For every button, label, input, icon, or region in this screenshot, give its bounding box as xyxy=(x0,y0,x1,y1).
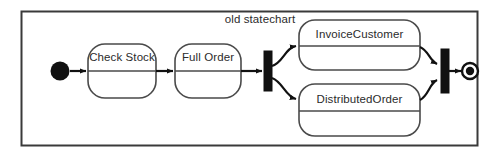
statechart-canvas: old statechart Check Stock Full Order xyxy=(0,0,498,156)
diagram-title: old statechart xyxy=(225,13,296,25)
statechart-diagram: old statechart Check Stock Full Order xyxy=(0,0,498,156)
initial-state-node[interactable] xyxy=(51,62,70,81)
fork-bar-node[interactable] xyxy=(264,51,272,91)
state-distributed-order-box xyxy=(299,84,420,136)
state-check-stock[interactable]: Check Stock xyxy=(88,44,156,98)
final-state-dot xyxy=(466,67,474,75)
final-state-node[interactable] xyxy=(462,63,478,79)
state-invoice-customer[interactable]: InvoiceCustomer xyxy=(299,20,420,70)
join-bar-node[interactable] xyxy=(441,49,449,93)
state-distributed-order[interactable]: DistributedOrder xyxy=(299,84,420,136)
state-invoice-customer-label: InvoiceCustomer xyxy=(316,28,404,40)
state-full-order-label: Full Order xyxy=(182,51,234,63)
state-full-order[interactable]: Full Order xyxy=(175,44,241,98)
state-distributed-order-label: DistributedOrder xyxy=(317,93,403,105)
state-check-stock-label: Check Stock xyxy=(89,51,155,63)
